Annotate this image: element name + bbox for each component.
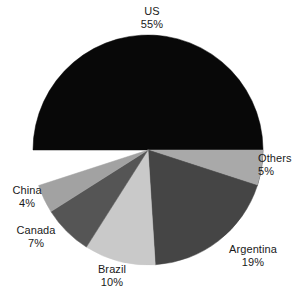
pie-slice-group (33, 35, 263, 265)
pie-label-brazil-name: Brazil (86, 263, 138, 276)
pie-label-us-name: US (122, 5, 182, 18)
pie-label-others-value: 5% (258, 165, 304, 178)
pie-label-brazil: Brazil 10% (86, 263, 138, 288)
pie-label-argentina-value: 19% (218, 256, 288, 269)
pie-label-us-value: 55% (122, 18, 182, 31)
pie-label-brazil-value: 10% (86, 276, 138, 289)
pie-label-canada-value: 7% (8, 237, 64, 250)
pie-label-argentina: Argentina 19% (218, 243, 288, 268)
pie-chart-figure: US 55% Others 5% Argentina 19% Brazil 10… (0, 0, 305, 296)
pie-label-others-name: Others (258, 152, 304, 165)
pie-label-canada-name: Canada (8, 224, 64, 237)
pie-label-china: China 4% (4, 184, 50, 209)
pie-label-china-name: China (4, 184, 50, 197)
pie-label-others: Others 5% (258, 152, 304, 177)
pie-label-china-value: 4% (4, 197, 50, 210)
pie-label-us: US 55% (122, 5, 182, 30)
pie-label-canada: Canada 7% (8, 224, 64, 249)
pie-label-argentina-name: Argentina (218, 243, 288, 256)
